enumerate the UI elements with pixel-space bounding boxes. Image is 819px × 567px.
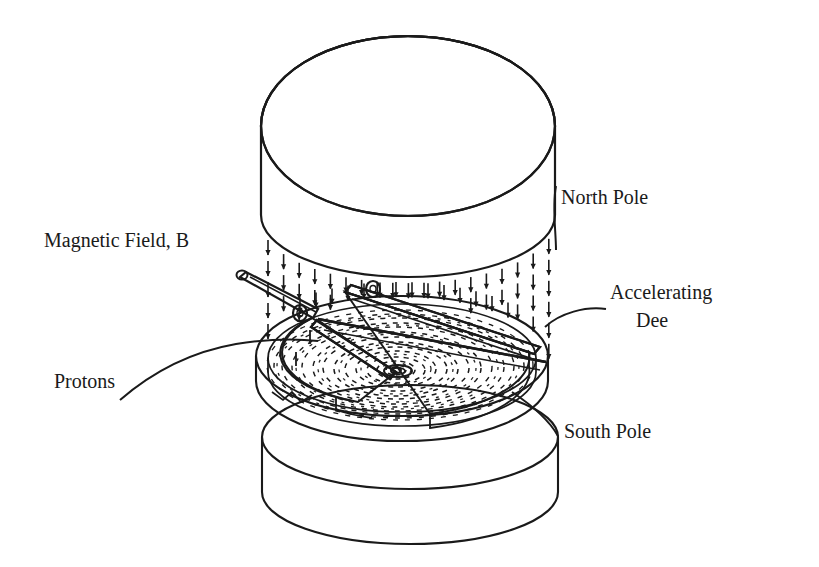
field-arrow <box>484 274 489 290</box>
label-accelerating-dee-line2: Dee <box>636 309 668 331</box>
field-arrow <box>437 282 442 298</box>
field-arrow <box>281 254 286 270</box>
field-arrow <box>499 269 504 285</box>
field-arrow <box>546 260 551 276</box>
field-arrow <box>515 283 520 299</box>
field-arrow <box>531 317 536 333</box>
label-magnetic-field: Magnetic Field, B <box>44 229 189 252</box>
label-south-pole: South Pole <box>564 420 651 442</box>
field-arrow <box>546 239 551 255</box>
leader-south-pole <box>512 392 558 466</box>
field-arrow <box>546 302 551 318</box>
field-arrow <box>468 277 473 293</box>
cyclotron-diagram: North Pole Magnetic Field, B Acceleratin… <box>0 0 819 567</box>
leader-accelerating-dee <box>545 308 606 327</box>
field-arrow <box>265 240 270 256</box>
field-arrow <box>453 280 458 296</box>
field-arrow <box>312 269 317 285</box>
field-arrow <box>281 296 286 312</box>
north-pole-magnet <box>261 36 555 277</box>
field-arrow <box>281 275 286 291</box>
field-arrow <box>531 296 536 312</box>
label-accelerating-dee-line1: Accelerating <box>610 281 712 304</box>
field-arrow <box>546 281 551 297</box>
field-arrow <box>297 263 302 279</box>
field-arrow <box>531 275 536 291</box>
field-arrow <box>515 262 520 278</box>
field-arrow <box>265 303 270 319</box>
label-north-pole: North Pole <box>561 186 648 208</box>
field-arrow <box>297 284 302 300</box>
field-arrow <box>499 290 504 306</box>
field-arrow <box>265 261 270 277</box>
south-pole-magnet <box>262 385 558 544</box>
diagram-canvas: North Pole Magnetic Field, B Acceleratin… <box>0 0 819 567</box>
label-protons: Protons <box>54 370 115 392</box>
field-arrow <box>531 254 536 270</box>
field-arrow <box>328 274 333 290</box>
